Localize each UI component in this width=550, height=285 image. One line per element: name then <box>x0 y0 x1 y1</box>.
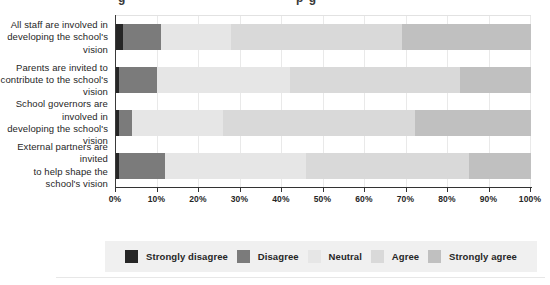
legend-item-strongly-disagree: Strongly disagree <box>125 250 228 263</box>
tick-mark-50% <box>323 188 324 192</box>
survey-stacked-bar-chart: g p g All staff are involved in developi… <box>0 0 550 285</box>
bar-segment-agree <box>290 67 461 93</box>
tick-label-40%: 40% <box>264 194 298 204</box>
bar-segment-strongly-disagree <box>115 24 123 50</box>
bar-rows: All staff are involved in developing the… <box>0 16 531 187</box>
tick-label-100%: 100% <box>513 194 547 204</box>
stacked-bar <box>115 67 531 93</box>
tick-label-30%: 30% <box>223 194 257 204</box>
category-label: External partners are invited to help sh… <box>0 141 115 190</box>
stacked-bar <box>115 24 531 50</box>
bar-segment-neutral <box>157 67 290 93</box>
chart-row: External partners are invited to help sh… <box>0 144 531 187</box>
tick-mark-70% <box>406 188 407 192</box>
tick-mark-0% <box>115 188 116 192</box>
category-label: Parents are invited to contribute to the… <box>0 62 115 99</box>
tick-label-60%: 60% <box>347 194 381 204</box>
legend-swatch-icon <box>237 250 250 263</box>
legend-label: Neutral <box>329 251 362 262</box>
legend-swatch-icon <box>428 250 441 263</box>
legend-swatch-icon <box>308 250 321 263</box>
chart-row: School governors are involved in develop… <box>0 102 531 145</box>
tick-mark-60% <box>364 188 365 192</box>
bar-segment-strongly-agree <box>402 24 531 50</box>
legend-item-agree: Agree <box>371 250 419 263</box>
bottom-divider <box>56 277 545 278</box>
chart-row: Parents are invited to contribute to the… <box>0 59 531 102</box>
y-axis-spine <box>115 15 116 188</box>
cropped-title-fragment: g <box>118 0 126 5</box>
bar-segment-neutral <box>161 24 232 50</box>
bar-segment-disagree <box>119 67 156 93</box>
tick-mark-10% <box>157 188 158 192</box>
bar-segment-disagree <box>119 110 131 136</box>
bar-segment-disagree <box>119 153 165 179</box>
tick-label-80%: 80% <box>430 194 464 204</box>
legend-label: Agree <box>392 251 419 262</box>
stacked-bar <box>115 110 531 136</box>
legend-label: Strongly disagree <box>146 251 228 262</box>
chart-row: All staff are involved in developing the… <box>0 16 531 59</box>
legend-swatch-icon <box>371 250 384 263</box>
legend-label: Disagree <box>258 251 299 262</box>
legend-swatch-icon <box>125 250 138 263</box>
bar-segment-neutral <box>132 110 224 136</box>
bar-segment-strongly-agree <box>415 110 531 136</box>
tick-label-90%: 90% <box>472 194 506 204</box>
tick-mark-80% <box>447 188 448 192</box>
bar-segment-agree <box>306 153 468 179</box>
legend-item-strongly-agree: Strongly agree <box>428 250 517 263</box>
cropped-title-fragment: p g <box>296 0 317 5</box>
tick-label-20%: 20% <box>181 194 215 204</box>
bar-segment-strongly-agree <box>460 67 531 93</box>
tick-label-50%: 50% <box>306 194 340 204</box>
cropped-title-line: g p g <box>0 0 550 5</box>
legend-item-disagree: Disagree <box>237 250 299 263</box>
stacked-bar <box>115 153 531 179</box>
category-label: All staff are involved in developing the… <box>0 19 115 56</box>
bar-segment-agree <box>231 24 402 50</box>
tick-mark-30% <box>240 188 241 192</box>
tick-mark-90% <box>489 188 490 192</box>
bar-segment-strongly-agree <box>469 153 531 179</box>
tick-mark-20% <box>198 188 199 192</box>
tick-label-0%: 0% <box>98 194 132 204</box>
tick-label-70%: 70% <box>389 194 423 204</box>
legend-item-neutral: Neutral <box>308 250 362 263</box>
bar-segment-disagree <box>123 24 160 50</box>
x-axis-line <box>115 187 532 188</box>
tick-label-10%: 10% <box>140 194 174 204</box>
legend-label: Strongly agree <box>449 251 517 262</box>
tick-mark-100% <box>530 188 531 192</box>
tick-mark-40% <box>281 188 282 192</box>
legend: Strongly disagreeDisagreeNeutralAgreeStr… <box>105 241 537 272</box>
bar-segment-agree <box>223 110 414 136</box>
bar-segment-neutral <box>165 153 306 179</box>
